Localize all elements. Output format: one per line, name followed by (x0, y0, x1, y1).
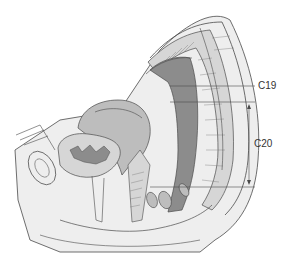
label-c20: C20 (254, 138, 272, 149)
label-c19: C19 (258, 80, 276, 91)
pelvis-sagittal-diagram (0, 0, 294, 256)
